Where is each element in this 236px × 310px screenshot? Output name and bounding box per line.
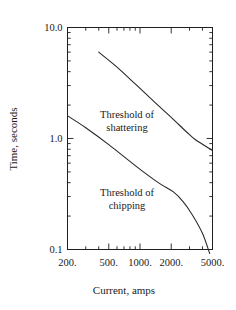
x-tick-label: 1000. [128,257,152,268]
annotation-chipping-line1: Threshold of [100,187,154,198]
annotation-shattering-line1: Threshold of [100,109,154,120]
y-tick-label: 1.0 [49,133,62,144]
x-tick-label: 500. [100,257,118,268]
annotation-chipping-line2: chipping [109,200,146,211]
threshold-log-log-chart: 10.01.00.1 200.500.1000.2000.5000. Curre… [0,0,236,310]
y-tick-label: 0.1 [49,244,62,255]
x-tick-label: 5000. [201,257,225,268]
x-tick-label: 200. [58,257,76,268]
y-tick-label: 10.0 [44,22,62,33]
chart-figure: 10.01.00.1 200.500.1000.2000.5000. Curre… [0,0,236,310]
y-axis-title: Time, seconds [7,107,19,170]
annotation-shattering-line2: shattering [106,122,148,133]
x-tick-label: 2000. [159,257,183,268]
x-axis-title: Current, amps [93,284,155,296]
